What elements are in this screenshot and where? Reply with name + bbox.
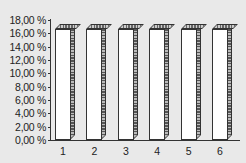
x-axis [50,140,240,141]
y-tick-mark [48,127,51,128]
bar-3 [118,0,140,140]
x-tick-label: 4 [147,145,167,157]
bar-1 [55,0,77,140]
x-tick-label: 6 [210,145,230,157]
bar-top [181,24,207,29]
bar-top [118,24,144,29]
y-tick-label: 6,00 % [0,95,46,105]
y-tick-mark [48,100,51,101]
y-tick-label: 12,00 % [0,55,46,65]
bar-front [55,29,71,140]
y-tick-label: 4,00 % [0,108,46,118]
y-tick-mark [48,73,51,74]
y-tick-label: 14,00 % [0,42,46,52]
y-tick-label: 8,00 % [0,82,46,92]
y-tick-mark [48,87,51,88]
bar-front [118,29,134,140]
bar-top [55,24,81,29]
bar-2 [86,0,108,140]
x-tick-label: 1 [53,145,73,157]
y-tick-mark [48,33,51,34]
y-tick-label: 0,00 % [0,135,46,145]
bar-front [181,29,197,140]
bar-top [212,24,238,29]
bar-top [149,24,175,29]
x-tick-label: 3 [116,145,136,157]
bar-chart: 0,00 %2,00 %4,00 %6,00 %8,00 %10,00 %12,… [0,0,246,163]
bar-front [212,29,228,140]
y-tick-label: 10,00 % [0,68,46,78]
y-tick-label: 2,00 % [0,122,46,132]
x-tick-label: 5 [179,145,199,157]
bar-front [149,29,165,140]
y-tick-label: 16,00 % [0,28,46,38]
y-tick-label: 18,00 % [0,15,46,25]
y-tick-mark [48,140,51,141]
bar-4 [149,0,171,140]
bar-front [86,29,102,140]
bar-6 [212,0,234,140]
bar-5 [181,0,203,140]
y-tick-mark [48,113,51,114]
y-tick-mark [48,47,51,48]
y-axis [50,19,51,140]
x-tick-label: 2 [84,145,104,157]
y-tick-mark [48,60,51,61]
bar-top [86,24,112,29]
y-tick-mark [48,20,51,21]
